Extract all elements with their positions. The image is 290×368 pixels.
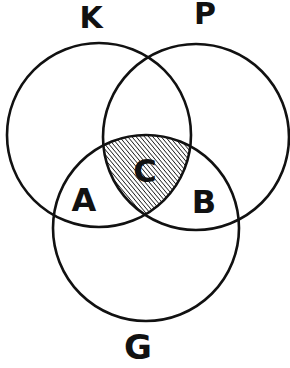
region-label-b: B — [192, 183, 216, 221]
set-label-g: G — [124, 327, 152, 367]
region-label-c: C — [133, 152, 156, 190]
circle-k — [7, 43, 191, 227]
set-label-p: P — [194, 0, 216, 31]
region-label-a: A — [72, 181, 97, 219]
set-label-k: K — [79, 0, 104, 35]
venn-diagram: K P G A B C — [0, 0, 290, 368]
